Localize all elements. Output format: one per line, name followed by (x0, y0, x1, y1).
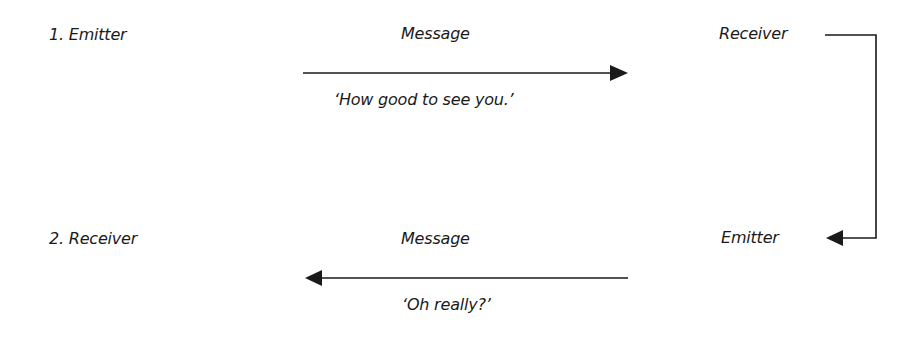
utterance-1: ‘How good to see you.’ (334, 92, 513, 108)
message-arrow-2 (305, 270, 628, 286)
utterance-2: ‘Oh really?’ (402, 297, 491, 313)
arrowhead-left-icon (305, 270, 322, 286)
message-1-label: Message (401, 26, 470, 42)
message-arrow-1 (303, 65, 628, 81)
receiver-1-label: Receiver (719, 26, 787, 42)
arrowhead-right-icon (610, 65, 628, 81)
emitter-2-label: Emitter (721, 230, 779, 246)
role-swap-connector (825, 35, 876, 246)
message-2-label: Message (401, 231, 470, 247)
emitter-1-label: 1. Emitter (49, 27, 126, 43)
diagram-lines (0, 0, 923, 339)
arrowhead-left-icon (826, 230, 843, 246)
receiver-2-label: 2. Receiver (49, 231, 137, 247)
